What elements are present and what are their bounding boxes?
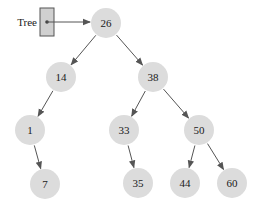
edge-50-60 [208, 144, 224, 170]
node-value: 14 [56, 71, 68, 83]
edge-38-50 [164, 89, 189, 118]
edges [34, 35, 223, 169]
tree-pointer: Tree [17, 8, 90, 36]
edge-38-33 [132, 91, 146, 116]
tree-node-60: 60 [217, 168, 247, 198]
tree-node-38: 38 [138, 62, 168, 92]
tree-node-50: 50 [184, 115, 214, 145]
node-value: 38 [148, 71, 160, 83]
node-value: 33 [119, 124, 131, 136]
edge-1-7 [34, 145, 40, 168]
tree-diagram: Tree 261438133507354460 [0, 0, 256, 208]
tree-node-14: 14 [46, 62, 76, 92]
tree-node-26: 26 [91, 8, 121, 38]
node-value: 60 [227, 177, 239, 189]
node-value: 35 [133, 177, 145, 189]
edge-14-1 [38, 91, 53, 116]
tree-node-7: 7 [30, 169, 60, 199]
tree-label: Tree [17, 16, 37, 28]
node-value: 1 [27, 124, 33, 136]
tree-node-1: 1 [15, 115, 45, 145]
edge-50-44 [189, 146, 195, 168]
tree-node-33: 33 [109, 115, 139, 145]
tree-node-44: 44 [170, 168, 200, 198]
node-value: 7 [42, 178, 48, 190]
tree-node-35: 35 [123, 168, 153, 198]
node-value: 44 [180, 177, 192, 189]
nodes: 261438133507354460 [15, 8, 247, 199]
edge-33-35 [128, 146, 134, 168]
node-value: 26 [101, 17, 113, 29]
edge-26-38 [117, 35, 143, 65]
edge-26-14 [71, 35, 96, 64]
node-value: 50 [194, 124, 206, 136]
